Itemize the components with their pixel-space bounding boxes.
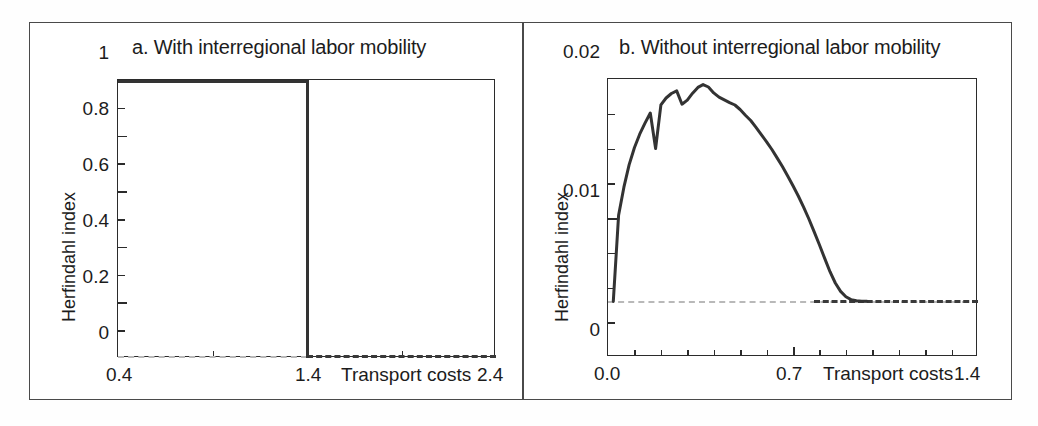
panel-a-y-tick-label-1: 1 — [67, 42, 109, 64]
panel-a-ytick-0.2 — [118, 302, 127, 304]
panel-a-x-tick-label-2.4: 2.4 — [477, 364, 503, 386]
panel-a-y-tick-label-0.6: 0.6 — [61, 154, 109, 176]
panel-a-x-tick-label-0.4: 0.4 — [106, 364, 132, 386]
panel-a-x-axis-caption: Transport costs — [341, 364, 471, 386]
panel-b-y-tick-label-0: 0 — [564, 319, 600, 341]
panel-a-agglomeration-drop — [306, 80, 309, 358]
panel-b-y-tick-label-0.02: 0.02 — [536, 41, 600, 63]
panel-b: b. Without interregional labor mobility … — [524, 22, 1012, 400]
panel-a-ytick-0.9 — [118, 108, 125, 110]
panel-b-x-tick-label-0.7: 0.7 — [776, 363, 802, 385]
figure-root: a. With interregional labor mobility Her… — [0, 0, 1038, 426]
panel-a-ytick-0.5 — [118, 219, 125, 221]
panel-a-y-tick-label-0: 0 — [67, 322, 109, 344]
panel-b-y-tick-label-0.01: 0.01 — [536, 180, 600, 202]
panel-a-plot-area — [117, 79, 495, 357]
panel-a-agglomeration-plateau — [118, 80, 308, 83]
panel-a: a. With interregional labor mobility Her… — [29, 22, 522, 400]
panel-b-title: b. Without interregional labor mobility — [619, 36, 940, 59]
panel-b-y-axis-caption: Herfindahl index — [552, 192, 573, 322]
panel-b-plot-area — [607, 78, 977, 356]
panel-b-x-axis-caption: Transport costs — [823, 363, 953, 385]
panel-a-ytick-0.6 — [118, 191, 127, 193]
panel-a-title: a. With interregional labor mobility — [132, 36, 426, 59]
panel-a-dispersed-stable-line — [307, 355, 496, 358]
panel-a-y-tick-label-0.8: 0.8 — [61, 98, 109, 120]
panel-b-x-tick-label-0.0: 0.0 — [594, 363, 620, 385]
panel-b-x-tick-label-1.4: 1.4 — [954, 363, 980, 385]
panel-a-y-tick-label-0.2: 0.2 — [61, 266, 109, 288]
panel-a-dispersed-unstable-line — [118, 356, 307, 358]
panel-a-ytick-0.3 — [118, 275, 125, 277]
panel-a-y-tick-label-0.4: 0.4 — [61, 210, 109, 232]
panel-a-x-tick-label-1.4: 1.4 — [295, 364, 321, 386]
panel-a-ytick-0.4 — [118, 247, 127, 249]
panel-a-ytick-0.1 — [118, 330, 125, 332]
panel-a-ytick-0.8 — [118, 136, 127, 138]
panel-a-ytick-0.7 — [118, 163, 125, 165]
panel-b-agglomeration-curve — [608, 79, 978, 357]
